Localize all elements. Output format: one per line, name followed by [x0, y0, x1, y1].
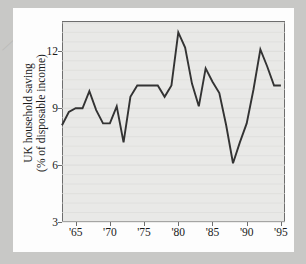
figure-card: UK household saving (% of disposable inc… [13, 8, 294, 252]
x-tick-mark [144, 222, 145, 226]
y-tick-mark [58, 222, 62, 223]
x-tick-label: '90 [240, 226, 254, 238]
y-axis-title: UK household saving (% of disposable inc… [13, 8, 57, 218]
y-axis-title-line-2: (% of disposable income) [35, 54, 48, 172]
y-axis-title-line-1: UK household saving [22, 54, 35, 172]
x-tick-label: '95 [274, 226, 288, 238]
x-tick-mark [212, 222, 213, 226]
x-tick-label: '65 [69, 226, 83, 238]
x-tick-label: '70 [103, 226, 117, 238]
x-tick-label: '80 [171, 226, 185, 238]
data-series-layer [62, 21, 285, 222]
x-tick-mark [110, 222, 111, 226]
x-tick-mark [281, 222, 282, 226]
plot-area: 36912 '65'70'75'80'85'90'95 [62, 21, 285, 222]
x-tick-mark [76, 222, 77, 226]
series-line-uk-household-saving [62, 32, 281, 163]
y-tick-mark [58, 108, 62, 109]
y-tick-mark [58, 165, 62, 166]
x-tick-mark [178, 222, 179, 226]
x-tick-label: '75 [137, 226, 151, 238]
x-tick-mark [247, 222, 248, 226]
y-tick-mark [58, 51, 62, 52]
line-chart: UK household saving (% of disposable inc… [13, 8, 294, 252]
x-tick-label: '85 [206, 226, 220, 238]
y-tick-label: 12 [47, 45, 59, 57]
